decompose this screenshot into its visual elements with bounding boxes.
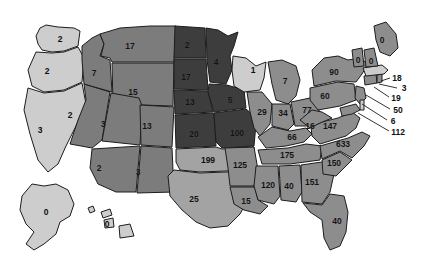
value-label-new-jersey: 50 [393, 106, 402, 115]
value-label-oklahoma: 199 [201, 156, 215, 165]
value-label-missouri: 100 [230, 129, 244, 138]
value-label-new-mexico: 3 [136, 168, 141, 177]
value-label-alabama: 40 [284, 182, 293, 191]
state-montana[interactable] [100, 26, 176, 62]
value-label-montana: 17 [125, 42, 134, 51]
value-label-hawaii: 0 [105, 220, 110, 229]
value-label-georgia: 151 [305, 178, 319, 187]
us-map-svg [0, 0, 422, 268]
value-label-kentucky: 66 [287, 133, 296, 142]
value-label-indiana: 34 [278, 109, 287, 118]
value-label-rhode-island: 3 [402, 84, 407, 93]
us-choropleth-map: 2232717153231321713201992545100125151297… [0, 0, 422, 268]
value-label-ohio: 77 [302, 106, 311, 115]
value-label-kansas: 20 [189, 130, 198, 139]
leader-line-rhode-island [379, 84, 397, 88]
value-label-arkansas: 125 [233, 161, 247, 170]
value-label-virginia: 147 [323, 122, 337, 131]
value-label-north-carolina: 633 [336, 140, 350, 149]
leader-line-connecticut [374, 87, 389, 97]
value-label-wyoming: 15 [128, 88, 137, 97]
value-label-west-virginia: 16 [305, 122, 314, 131]
leader-line-maryland [358, 113, 389, 131]
value-label-oregon: 2 [45, 67, 50, 76]
value-label-connecticut: 19 [391, 94, 400, 103]
value-label-tennessee: 175 [280, 151, 294, 160]
state-new-mexico[interactable] [137, 146, 174, 193]
value-label-maine: 0 [380, 36, 385, 45]
state-hawaii-4[interactable] [119, 224, 134, 238]
value-label-pennsylvania: 60 [320, 92, 329, 101]
value-label-massachusetts: 18 [392, 74, 401, 83]
value-label-minnesota: 4 [214, 58, 219, 67]
state-maryland[interactable] [340, 104, 360, 116]
value-label-south-dakota: 17 [181, 73, 190, 82]
value-label-maryland: 112 [391, 128, 405, 137]
value-label-mississippi: 120 [261, 181, 275, 190]
value-label-colorado: 13 [142, 122, 151, 131]
state-south-dakota[interactable] [174, 59, 208, 90]
value-label-iowa: 5 [228, 96, 233, 105]
value-label-louisiana: 15 [241, 197, 250, 206]
value-label-south-carolina: 150 [327, 159, 341, 168]
value-label-new-york: 90 [329, 68, 338, 77]
state-alaska[interactable] [20, 184, 74, 250]
state-hawaii-2[interactable] [101, 209, 112, 218]
state-hawaii[interactable] [88, 206, 95, 213]
value-label-texas: 25 [189, 195, 198, 204]
value-label-california: 3 [38, 126, 43, 135]
value-label-nevada: 2 [68, 111, 73, 120]
value-label-delaware: 6 [391, 117, 396, 126]
value-label-vermont: 0 [356, 56, 361, 65]
value-label-idaho: 7 [92, 69, 97, 78]
value-label-illinois: 29 [257, 108, 266, 117]
value-label-michigan: 7 [283, 77, 288, 86]
value-label-north-dakota: 2 [185, 41, 190, 50]
value-label-new-hampshire: 0 [369, 57, 374, 66]
value-label-wisconsin: 1 [251, 66, 256, 75]
state-rhode-island[interactable] [377, 74, 382, 83]
value-label-florida: 40 [332, 217, 341, 226]
state-maine[interactable] [374, 22, 398, 56]
leader-line-new-jersey [366, 95, 390, 109]
state-wisconsin[interactable] [232, 56, 266, 92]
value-label-nebraska: 13 [185, 98, 194, 107]
state-north-dakota[interactable] [174, 26, 206, 58]
state-oregon[interactable] [28, 47, 84, 92]
value-label-alaska: 0 [44, 208, 49, 217]
value-label-washington: 2 [58, 35, 63, 44]
value-label-utah: 3 [101, 120, 106, 129]
value-label-arizona: 2 [97, 164, 102, 173]
